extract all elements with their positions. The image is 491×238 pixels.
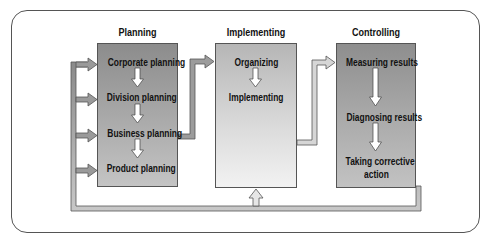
down-arrow-icon xyxy=(132,68,144,87)
inner-arrow-layer xyxy=(0,0,491,238)
down-arrow-icon xyxy=(370,123,382,151)
down-arrow-icon xyxy=(370,68,382,106)
down-arrow-icon xyxy=(132,104,144,123)
down-arrow-icon xyxy=(132,139,144,158)
down-arrow-icon xyxy=(250,68,262,87)
